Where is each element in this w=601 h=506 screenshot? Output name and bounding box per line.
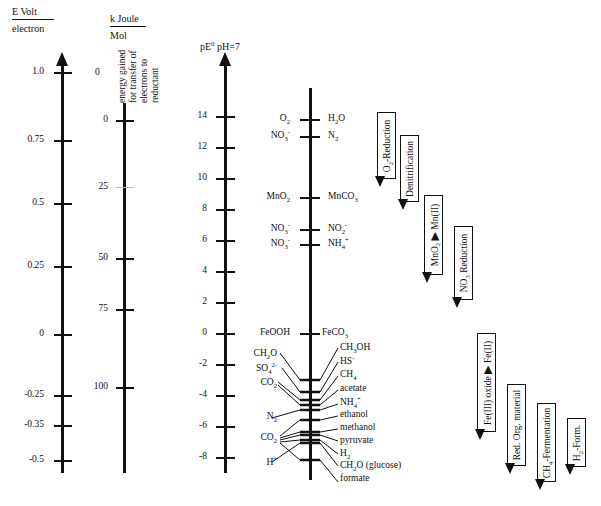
process-label: MnO2 ▶ Mn(II): [427, 204, 440, 266]
reductant-label: ethanol: [340, 410, 368, 420]
process-down-arrow-icon: [422, 272, 432, 283]
oxidant-label: N2: [267, 412, 277, 422]
process-label: Red. Org. material: [512, 390, 522, 461]
oxidant-label: SO42-: [256, 364, 277, 374]
process-down-arrow-icon: [565, 464, 575, 475]
oxidant-label: CO2: [260, 433, 277, 443]
process-label: Denitrification: [405, 141, 415, 197]
process-label: NO3 Reduction: [459, 234, 469, 293]
reductant-label: acetate: [340, 384, 366, 394]
process-label: H2-Form.: [572, 424, 582, 460]
oxidant-label: CH2O: [254, 349, 277, 359]
process-label: Fe(III) oxide ▶ Fe(II): [480, 340, 493, 424]
process-box: Fe(III) oxide ▶ Fe(II): [477, 333, 496, 432]
process-down-arrow-icon: [505, 463, 515, 474]
reductant-label: CH2O (glucose): [340, 461, 401, 471]
reductant-label: H2: [340, 449, 350, 459]
process-label: O2-Reduction: [382, 119, 392, 171]
process-box: Denitrification: [400, 135, 419, 202]
process-box: NO3 Reduction: [454, 226, 473, 300]
reductant-label: formate: [340, 474, 370, 484]
process-down-arrow-icon: [398, 199, 408, 210]
reductant-label: CH4: [340, 370, 357, 380]
reductant-label: pyruvate: [340, 436, 373, 446]
process-down-arrow-icon: [452, 297, 462, 308]
reductant-label: HS-: [340, 357, 354, 367]
reductant-label: CH3OH: [340, 343, 370, 353]
oxidant-label: H+: [266, 458, 277, 468]
process-box: MnO2 ▶ Mn(II): [424, 195, 443, 275]
process-down-arrow-icon: [475, 429, 485, 440]
oxidant-label: CO2: [260, 378, 277, 388]
process-box: O2-Reduction: [377, 112, 396, 179]
process-box: CH4-Fermentation: [537, 403, 556, 482]
reductant-label: methanol: [340, 423, 375, 433]
process-box: H2-Form.: [567, 418, 586, 467]
process-down-arrow-icon: [375, 176, 385, 187]
process-down-arrow-icon: [535, 479, 545, 490]
process-label: CH4-Fermentation: [542, 407, 552, 477]
process-box: Red. Org. material: [507, 384, 526, 466]
reductant-label: NH4+: [340, 398, 361, 408]
